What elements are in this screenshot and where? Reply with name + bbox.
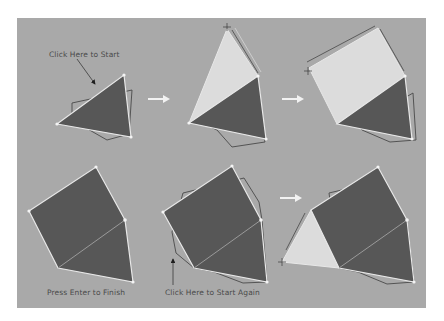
flow-arrow-3: [280, 194, 302, 202]
step-1-triangle: [55, 59, 132, 140]
geometry-diagram: [0, 0, 444, 321]
flow-arrow-2: [282, 95, 304, 103]
step-5-pentagon-outline: [161, 164, 268, 285]
finish-label: Press Enter to Finish: [47, 288, 125, 297]
start-again-label: Click Here to Start Again: [165, 288, 260, 297]
crosshair-icon: [223, 23, 231, 31]
step-2-triangle-extension: [187, 23, 267, 147]
step-6-new-triangle: [278, 165, 416, 284]
start-pointer-arrow: [77, 59, 95, 84]
step-4-finished-pentagon: [27, 165, 134, 283]
step-3-square-extension: [304, 26, 416, 142]
start-label: Click Here to Start: [49, 50, 120, 59]
flow-arrow-1: [148, 95, 170, 103]
